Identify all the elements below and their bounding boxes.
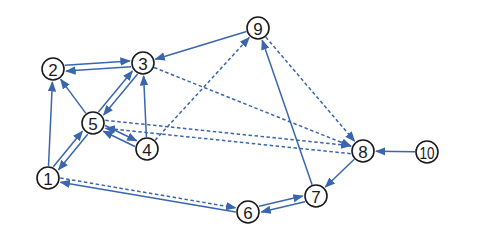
edge-1-to-2: [49, 82, 53, 166]
edge-3-to-5: [104, 74, 138, 115]
edge-1-to-6-dashed: [60, 178, 235, 208]
node-label: 3: [138, 55, 147, 74]
node-8: 8: [352, 140, 374, 162]
edge-3-to-2: [66, 67, 131, 71]
edge-5-to-4: [105, 126, 137, 141]
edge-5-to-3: [98, 71, 132, 112]
node-10: 10: [416, 141, 438, 163]
edge-10-to-8: [376, 151, 415, 152]
node-label: 7: [311, 188, 320, 207]
edge-1-to-5: [53, 131, 82, 167]
node-3: 3: [132, 52, 154, 74]
node-label: 2: [48, 61, 57, 80]
node-label: 8: [358, 143, 367, 162]
node-5: 5: [82, 112, 104, 134]
node-label: 6: [243, 204, 252, 223]
node-label: 4: [142, 141, 151, 160]
edge-6-to-1: [61, 182, 236, 212]
edge-8-to-7: [325, 159, 354, 187]
node-2: 2: [42, 58, 64, 80]
node-label: 5: [88, 115, 97, 134]
nodes-layer: 12345678910: [37, 17, 438, 223]
graph-diagram: 12345678910: [0, 0, 477, 240]
edge-4-to-5: [103, 131, 134, 146]
edge-5-to-1: [59, 134, 88, 170]
edge-4-to-3: [144, 76, 147, 137]
node-label: 1: [43, 170, 52, 189]
edge-2-to-3: [65, 61, 130, 65]
node-7: 7: [305, 185, 327, 207]
graph-canvas: 12345678910: [0, 0, 477, 240]
edge-6-to-7: [259, 196, 303, 206]
node-4: 4: [136, 138, 158, 160]
edge-5-to-2: [61, 79, 86, 113]
node-9: 9: [247, 17, 269, 39]
node-label: 10: [420, 144, 435, 163]
edge-7-to-6: [261, 202, 305, 212]
edge-4-to-9-dashed: [155, 38, 249, 141]
edge-3-to-8-dashed: [154, 68, 351, 147]
node-6: 6: [237, 201, 259, 223]
node-label: 9: [253, 20, 262, 39]
node-1: 1: [37, 167, 59, 189]
